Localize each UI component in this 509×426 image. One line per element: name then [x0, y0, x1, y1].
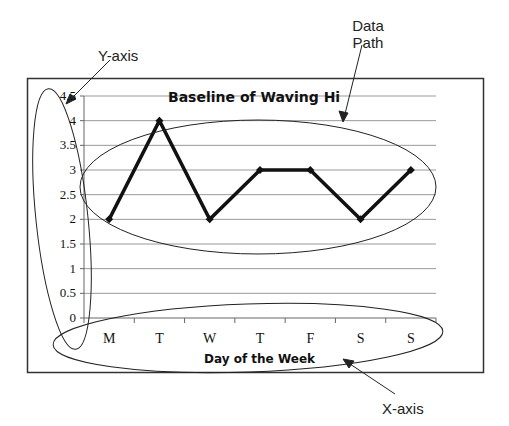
y-tick-label: 2 [46, 211, 76, 227]
y-tick-label: 0 [46, 310, 76, 326]
y-tick-label: 2.5 [46, 187, 76, 203]
y-tick-label: 4 [46, 113, 76, 129]
data-path-ellipse [80, 120, 436, 254]
x-tick-label: T [250, 331, 270, 347]
gridlines [84, 96, 436, 293]
figure: Data Path Y-axis X-axis Baseline of Wavi… [0, 0, 509, 426]
x-tick-label: S [351, 331, 371, 347]
axes [80, 96, 436, 323]
y-axis-label: Y-axis [98, 47, 138, 64]
x-axis-title: Day of the Week [204, 352, 315, 366]
x-tick-label: W [200, 331, 220, 347]
y-tick-label: 0.5 [46, 285, 76, 301]
data-path-label: Data Path [348, 17, 388, 51]
y-tick-label: 1.5 [46, 236, 76, 252]
y-tick-label: 4.5 [46, 88, 76, 104]
chart-title: Baseline of Waving Hi [168, 89, 340, 105]
y-tick-label: 3.5 [46, 137, 76, 153]
y-tick-label: 1 [46, 261, 76, 277]
chart-frame [28, 79, 484, 373]
data-path-label-line2: Path [348, 34, 388, 51]
x-tick-label: S [401, 331, 421, 347]
y-tick-label: 3 [46, 162, 76, 178]
data-path-label-line1: Data [348, 17, 388, 34]
x-axis-label: X-axis [382, 400, 424, 417]
x-tick-label: M [99, 331, 119, 347]
x-tick-label: T [149, 331, 169, 347]
x-tick-label: F [300, 331, 320, 347]
